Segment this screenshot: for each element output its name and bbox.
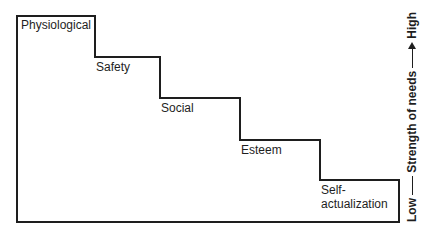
step-label-esteem: Esteem	[241, 144, 282, 157]
strength-axis: Low Strength of needs High	[404, 12, 420, 222]
step-label-self-line2: actualization	[321, 198, 388, 211]
axis-line	[412, 49, 413, 68]
axis-line	[412, 176, 413, 195]
step-label-physiological: Physiological	[21, 19, 91, 32]
axis-high-label: High	[405, 12, 419, 39]
step-label-safety: Safety	[96, 61, 130, 74]
arrow-up-icon	[408, 42, 416, 49]
axis-title: Strength of needs	[405, 71, 419, 173]
axis-low-label: Low	[405, 198, 419, 222]
step-label-social: Social	[161, 102, 194, 115]
step-label-self-line1: Self-	[321, 184, 346, 197]
